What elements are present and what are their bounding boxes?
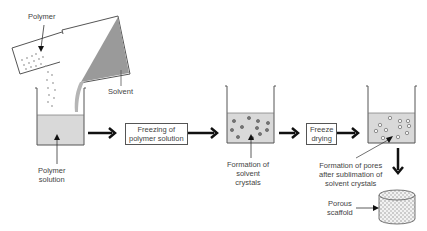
arrow-3 — [279, 128, 298, 138]
label-polymer-solution-line2: solution — [38, 175, 66, 184]
label-porous-scaffold: Porous scaffold — [327, 199, 353, 217]
label-porous-scaffold-line1: Porous — [327, 199, 353, 208]
label-solvent-crystals-line3: crystals — [227, 178, 269, 187]
arrow-down — [393, 148, 403, 173]
label-solvent: Solvent — [108, 87, 133, 96]
label-solvent-crystals-line1: Formation of — [227, 160, 269, 169]
step-freezing-box: Freezing of polymer solution — [125, 123, 188, 145]
label-pores-line2: after sublimation of — [319, 170, 382, 179]
arrow-4 — [335, 128, 358, 138]
label-pores: Formation of pores after sublimation of … — [319, 161, 382, 188]
step-freeze-drying-line1: Freeze — [310, 125, 333, 134]
solvent-container — [62, 16, 130, 112]
label-polymer: Polymer — [28, 12, 56, 21]
beaker-solvent-crystals — [225, 86, 276, 158]
process-diagram — [0, 0, 427, 231]
label-solvent-crystals: Formation of solvent crystals — [227, 160, 269, 187]
label-porous-scaffold-line2: scaffold — [327, 208, 353, 217]
porous-scaffold — [356, 190, 415, 224]
label-solvent-crystals-line2: solvent — [227, 169, 269, 178]
label-pores-line3: solvent crystals — [319, 179, 382, 188]
polymer-pointer-head — [38, 46, 44, 52]
beaker-pores — [356, 86, 417, 158]
step-freezing-line1: Freezing of — [129, 125, 184, 134]
label-polymer-solution-line1: Polymer — [38, 166, 66, 175]
polymer-pointer — [41, 25, 44, 48]
arrow-2 — [188, 128, 217, 138]
arrow-1 — [88, 128, 115, 138]
step-freeze-drying-line2: drying — [310, 134, 333, 143]
label-pores-line1: Formation of pores — [319, 161, 382, 170]
step-freeze-drying-box: Freeze drying — [306, 123, 337, 145]
label-polymer-solution: Polymer solution — [38, 166, 66, 184]
step-freezing-line2: polymer solution — [129, 134, 184, 143]
